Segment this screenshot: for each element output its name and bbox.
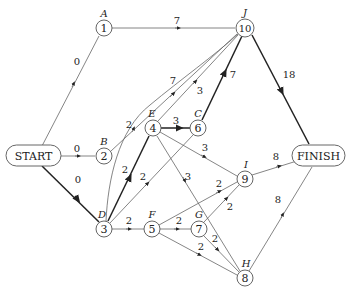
svg-text:J: J	[241, 7, 248, 18]
edge-start-d	[42, 166, 99, 222]
weight-d-c: 2	[140, 171, 146, 182]
edge-e-i	[160, 132, 237, 176]
svg-text:8: 8	[242, 272, 249, 285]
weight-e-i: 3	[202, 142, 208, 153]
weight-c-j: 7	[230, 69, 236, 80]
svg-text:E: E	[147, 108, 156, 119]
edge-i-finish	[252, 160, 300, 175]
weight-f-h: 2	[198, 241, 204, 252]
weight-start-d: 0	[75, 174, 81, 185]
svg-text:3: 3	[101, 223, 108, 236]
finish-terminal: FINISH	[292, 145, 345, 166]
weight-start-a: 0	[74, 56, 80, 67]
weight-d-j: 2	[126, 119, 132, 130]
edge-start-a	[42, 36, 99, 146]
svg-text:B: B	[99, 136, 107, 147]
svg-text:5: 5	[149, 223, 156, 236]
node-j: 10 J	[236, 7, 254, 37]
edges	[42, 28, 312, 275]
svg-text:F: F	[148, 209, 157, 220]
weight-f-g: 2	[176, 215, 182, 226]
node-h: 8 H	[237, 258, 253, 286]
weight-h-finish: 8	[275, 194, 281, 205]
node-b: 2 B	[96, 136, 112, 164]
svg-text:10: 10	[239, 23, 252, 34]
weight-e-c: 3	[173, 115, 179, 126]
weight-d-f: 2	[126, 215, 132, 226]
weight-g-i: 2	[227, 201, 233, 212]
svg-text:H: H	[241, 258, 251, 269]
svg-text:G: G	[195, 209, 203, 220]
weight-g-h: 2	[212, 233, 218, 244]
weight-j-finish: 18	[283, 69, 296, 80]
diagram-svg: 0 0 0 7 7 2 3 7 18 2 3 2 3 3 2 2 2 2 2 2…	[0, 0, 349, 290]
node-e: 4 E	[145, 108, 161, 136]
weight-e-h: 3	[185, 171, 191, 182]
weight-e-j: 3	[197, 85, 203, 96]
svg-text:C: C	[194, 108, 202, 119]
node-i: 9 I	[237, 159, 253, 187]
weight-start-b: 0	[74, 143, 80, 154]
svg-text:A: A	[99, 8, 107, 19]
edge-b-j	[111, 34, 237, 151]
svg-text:6: 6	[195, 122, 202, 135]
node-d: 3 D	[96, 209, 112, 237]
svg-text:I: I	[243, 159, 249, 170]
weight-a-j: 7	[174, 15, 180, 26]
svg-text:4: 4	[150, 122, 157, 135]
weight-b-j: 7	[170, 75, 176, 86]
svg-text:7: 7	[196, 223, 203, 236]
start-terminal: START	[6, 145, 61, 166]
network-diagram: 0 0 0 7 7 2 3 7 18 2 3 2 3 3 2 2 2 2 2 2…	[0, 0, 349, 290]
finish-label: FINISH	[297, 150, 340, 163]
node-f: 5 F	[144, 209, 160, 237]
start-label: START	[15, 150, 53, 163]
weight-d-e: 2	[122, 164, 128, 175]
weight-f-i: 2	[216, 178, 222, 189]
edge-h-finish	[249, 167, 312, 271]
svg-text:D: D	[97, 209, 106, 220]
svg-text:1: 1	[101, 22, 108, 35]
node-a: 1 A	[96, 8, 112, 36]
svg-text:2: 2	[101, 150, 108, 163]
edge-weights: 0 0 0 7 7 2 3 7 18 2 3 2 3 3 2 2 2 2 2 2…	[74, 15, 296, 252]
node-c: 6 C	[190, 108, 206, 136]
svg-text:9: 9	[242, 173, 249, 186]
weight-i-finish: 8	[273, 151, 279, 162]
